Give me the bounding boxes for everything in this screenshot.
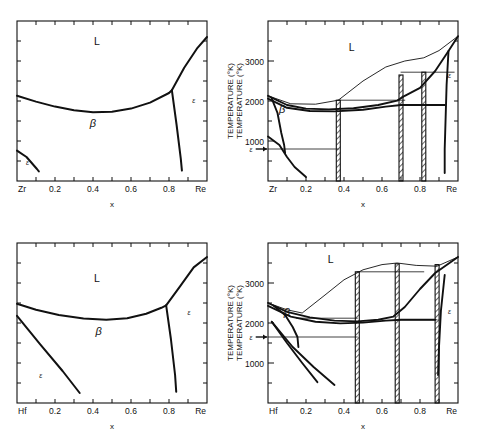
phase-boundary-solidus-upper [268,257,458,321]
x-end-label-left: Hf [269,406,278,416]
arrow-head-icon [263,334,267,339]
phase-boundary-re-rich-liquidus [166,257,207,305]
region-label: L [94,272,100,284]
region-label: β [283,306,291,318]
x-axis-title: x [110,200,114,209]
plot-frame [17,21,207,181]
y-tick-label: 1000 [245,137,264,147]
phase-boundary-solidus-upper [268,36,458,109]
x-tick-label: 0.8 [414,184,426,194]
x-tick-label: 0.4 [87,406,99,416]
phase-boundary-zr-epsilon [268,137,306,177]
plot-frame [268,243,458,403]
y-tick-label: 1000 [245,359,264,369]
x-tick-label: 0.4 [338,406,350,416]
line-compound-band [399,75,403,181]
x-axis-title: x [361,200,365,209]
region-label: β [95,325,103,337]
x-end-label-right: Re [446,406,457,416]
x-tick-label: 0.8 [163,184,175,194]
x-tick-label: 0.4 [338,184,350,194]
x-axis-title: x [361,422,365,431]
y-tick-label: 2000 [245,97,264,107]
phase-boundary-hf-epsilon-2 [272,322,335,385]
figure-phase-diagrams: 0.20.40.60.8ZrRexTEMPERATURE (°K)Lβεε100… [0,0,481,444]
region-label: ε [39,372,43,379]
x-end-label-right: Re [195,184,206,194]
x-tick-label: 0.6 [125,406,137,416]
x-tick-label: 0.2 [300,406,312,416]
phase-boundary-epsilon-boundary [166,305,176,391]
x-end-label-left: Zr [18,184,26,194]
phase-boundary-solidus-lower [268,306,435,324]
x-tick-label: 0.6 [125,184,137,194]
phase-boundary-liquidus-solidus [17,304,166,320]
region-label: L [94,35,100,47]
x-tick-label: 0.2 [49,184,61,194]
y-tick-label: 3000 [245,57,264,67]
region-label: β [89,117,97,129]
plot-frame [268,21,458,181]
y-axis-title: TEMPERATURE (°K) [235,285,244,361]
region-label: L [349,41,355,53]
phase-boundary-beta-boundary [274,306,299,347]
x-tick-label: 0.8 [163,406,175,416]
phase-boundary-beta-epsilon-hf-rich [17,316,80,393]
phase-boundary-solidus-lower [268,99,445,112]
region-label: L [328,253,334,265]
phase-boundary-beta-boundary [272,99,285,153]
region-label: ε [187,309,191,316]
line-compound-band [435,265,439,403]
line-compound-band [422,72,426,181]
phase-boundary-re-rich-liquidus [172,37,207,90]
phase-boundary-re-solvus [445,51,449,173]
x-tick-label: 0.6 [376,406,388,416]
arrow-head-icon [263,146,267,151]
x-end-label-left: Zr [269,184,277,194]
x-end-label-right: Re [195,406,206,416]
x-tick-label: 0.6 [376,184,388,194]
phase-boundary-liquidus [268,257,458,313]
x-tick-label: 0.2 [49,406,61,416]
y-tick-label: 3000 [245,279,264,289]
x-end-label-right: Re [446,184,457,194]
epsilon-arrow-label: ε [250,334,254,341]
region-label: ε [448,72,452,79]
region-label: ε [448,308,452,315]
region-label: ε [26,159,30,166]
phase-boundary-liquidus-solidus [17,90,172,112]
line-compound-band [355,272,359,403]
y-axis-title: TEMPERATURE (°K) [226,63,235,139]
region-label: β [278,103,286,115]
x-axis-title: x [110,422,114,431]
line-compound-band [336,100,340,181]
epsilon-arrow-label: ε [250,146,254,153]
line-compound-band [395,264,399,403]
x-tick-label: 0.8 [414,406,426,416]
x-tick-label: 0.4 [87,184,99,194]
x-tick-label: 0.2 [300,184,312,194]
y-axis-title: TEMPERATURE (°K) [226,285,235,361]
phase-boundary-re-solvus [438,275,445,375]
y-tick-label: 2000 [245,319,264,329]
y-axis-title: TEMPERATURE (°K) [235,63,244,139]
phase-boundary-liquidus [268,36,458,104]
x-end-label-left: Hf [18,406,27,416]
phase-boundary-beta-epsilon-zr-rich [17,151,39,172]
phase-boundary-epsilon-boundary [172,90,182,170]
region-label: ε [192,97,196,104]
plot-frame [17,243,207,403]
phase-boundary-hf-epsilon-1 [272,322,318,382]
